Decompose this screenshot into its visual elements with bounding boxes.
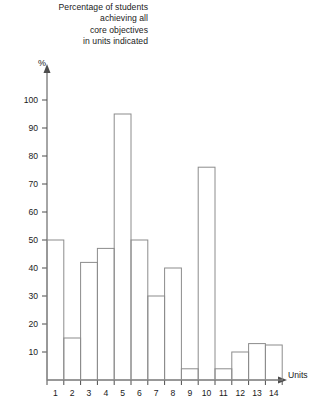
y-tick-label: 80: [28, 151, 38, 161]
y-tick-label: 100: [24, 95, 39, 105]
x-tick-label: 5: [120, 388, 125, 398]
x-tick-group: 1234567891011121314: [47, 380, 282, 398]
bar: [114, 114, 131, 380]
bar: [97, 248, 114, 380]
x-tick-label: 4: [103, 388, 108, 398]
x-tick-label: 3: [87, 388, 92, 398]
bar: [249, 344, 266, 380]
x-tick-label: 14: [269, 388, 279, 398]
y-tick-label: 50: [28, 235, 38, 245]
y-tick-label: 70: [28, 179, 38, 189]
x-tick-label: 1: [53, 388, 58, 398]
x-tick-label: 2: [70, 388, 75, 398]
bar: [64, 338, 81, 380]
y-tick-label: 40: [28, 263, 38, 273]
bar: [265, 345, 282, 380]
x-tick-label: 11: [219, 388, 228, 398]
bar: [131, 240, 148, 380]
bar: [215, 369, 232, 380]
chart-plot-area: 102030405060708090100 123456789101112131…: [0, 0, 318, 400]
x-tick-label: 10: [202, 388, 212, 398]
y-tick-label: 10: [28, 347, 38, 357]
bar: [81, 262, 98, 380]
y-tick-group: 102030405060708090100: [24, 95, 47, 357]
x-tick-label: 12: [235, 388, 245, 398]
y-tick-label: 60: [28, 207, 38, 217]
x-tick-label: 6: [137, 388, 142, 398]
x-tick-label: 8: [171, 388, 176, 398]
bar: [198, 167, 215, 380]
y-axis-arrow-icon: [44, 64, 51, 73]
x-tick-label: 13: [252, 388, 262, 398]
bar: [148, 296, 165, 380]
bar: [47, 240, 64, 380]
y-tick-label: 20: [28, 319, 38, 329]
x-tick-label: 7: [154, 388, 159, 398]
x-tick-label: 9: [187, 388, 192, 398]
bar: [165, 268, 182, 380]
bar-group: [47, 114, 282, 380]
bar: [181, 369, 198, 380]
y-tick-label: 90: [28, 123, 38, 133]
y-tick-label: 30: [28, 291, 38, 301]
bar: [232, 352, 249, 380]
chart-container: Percentage of students achieving all cor…: [0, 0, 318, 400]
